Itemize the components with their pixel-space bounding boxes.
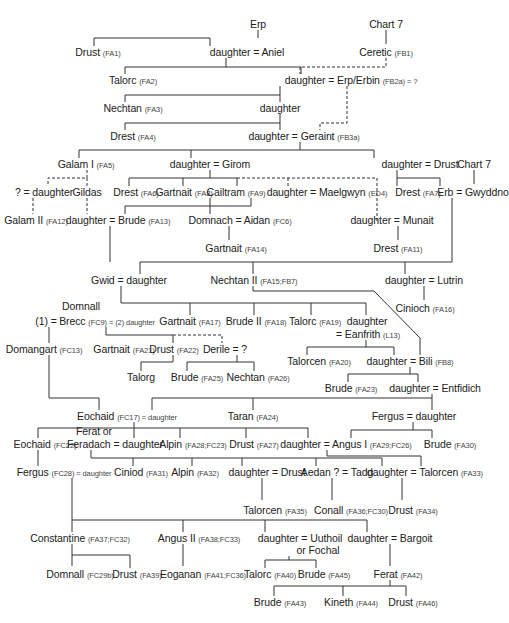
person-reference: (FB1) bbox=[395, 49, 413, 58]
person-reference: (FC29b) bbox=[87, 571, 114, 580]
person-node-brude23: Brude (FA23) bbox=[325, 382, 377, 396]
person-reference: (FA14) bbox=[245, 245, 267, 254]
person-node-constantine: Constantine (FA37;FC32) bbox=[30, 532, 130, 546]
person-name: Brude bbox=[171, 371, 199, 383]
person-node-brude13: daughter = Brude (FA13) bbox=[66, 214, 171, 228]
person-node-gwyddno: Erb = Gwyddno bbox=[437, 186, 508, 198]
person-reference: (FA36;FC30) bbox=[346, 507, 388, 516]
person-node-geraint: daughter = Geraint (FB3a) bbox=[248, 130, 359, 144]
person-node-drust22: Drust (FA22) bbox=[149, 343, 198, 357]
person-reference: (FA1) bbox=[103, 49, 121, 58]
person-name: Fergus bbox=[17, 466, 49, 478]
person-reference: (FA12) bbox=[46, 217, 68, 226]
person-name: Fergus = daughter bbox=[372, 410, 456, 422]
person-reference: (FA24) bbox=[256, 413, 278, 422]
person-name: daughter = Angus I bbox=[280, 438, 367, 450]
person-node-tadg: Aedan ? = Tadg bbox=[301, 466, 373, 478]
person-node-ciniod: Ciniod (FA31) bbox=[114, 466, 168, 480]
person-name: Domangart bbox=[6, 343, 57, 355]
person-name: Constantine bbox=[30, 532, 85, 544]
person-node-alpin28: Alpin (FA28;FC23) bbox=[159, 438, 227, 452]
person-name: Feradach = daughter bbox=[67, 438, 163, 450]
person-name: Gartnait bbox=[159, 315, 196, 327]
person-reference: (FC28) = daughter bbox=[52, 469, 112, 478]
person-node-maelgwyn: daughter = Maelgwyn (ED4) bbox=[267, 186, 388, 200]
person-node-taran: Taran (FA24) bbox=[228, 410, 279, 424]
person-reference: (FA39) bbox=[140, 571, 162, 580]
person-node-drust27: Drust (FA27) bbox=[229, 438, 278, 452]
person-name: Talorcen bbox=[243, 504, 282, 516]
person-name: Chart 7 bbox=[369, 18, 403, 30]
person-name: Angus II bbox=[158, 532, 196, 544]
person-node-cinioch: Cinioch (FA16) bbox=[395, 302, 454, 316]
person-reference: (FA3) bbox=[145, 105, 163, 114]
person-reference: (FB8) bbox=[435, 358, 453, 367]
person-reference: (FA9) bbox=[248, 189, 266, 198]
person-node-angus1: daughter = Angus I (FA29;FC26) bbox=[280, 438, 411, 452]
person-reference: (FA22) bbox=[177, 346, 199, 355]
person-name: Brude bbox=[424, 438, 452, 450]
person-reference: (FB2a) = ? bbox=[383, 77, 418, 86]
person-node-gildas: Gildas bbox=[72, 186, 101, 198]
person-name: Talorcen bbox=[287, 355, 326, 367]
person-name: Drest bbox=[395, 186, 420, 198]
person-node-gwid: Gwid = daughter bbox=[91, 274, 167, 286]
person-node-drust34: Drust (FA34) bbox=[388, 504, 437, 518]
person-name: Ceretic bbox=[359, 46, 392, 58]
person-name: Derile = ? bbox=[203, 343, 247, 355]
person-name: Drest bbox=[374, 242, 399, 254]
person-name: daughter = Drust bbox=[382, 158, 459, 170]
person-node-kineth: Kineth (FA44) bbox=[324, 596, 378, 610]
person-node-gartnait8: Gartnait (FA8) bbox=[155, 186, 212, 200]
person-reference: (FA23) bbox=[355, 385, 377, 394]
person-reference: (FA11) bbox=[401, 245, 422, 254]
person-reference: (FC13) bbox=[60, 346, 83, 355]
person-name: Kineth bbox=[324, 596, 353, 608]
person-name: Ferat bbox=[374, 568, 398, 580]
person-name: Gartnait bbox=[205, 242, 242, 254]
person-name: Brecc bbox=[59, 315, 85, 327]
person-node-eoganan: Eoganan (FA41;FC36) bbox=[160, 568, 246, 582]
person-name: daughter = Brude bbox=[66, 214, 146, 226]
person-node-entfidich: daughter = Entfidich bbox=[389, 382, 481, 394]
person-node-talorcen20: Talorcen (FA20) bbox=[287, 355, 351, 369]
person-name: Gildas bbox=[72, 186, 101, 198]
person-node-erbin: daughter = Erp/Erbin (FB2a) = ? bbox=[285, 74, 418, 88]
person-node-gartnait14: Gartnait (FA14) bbox=[205, 242, 266, 256]
person-node-talorc19: Talorc (FA19) bbox=[289, 315, 341, 329]
person-node-fochal: or Fochal bbox=[297, 544, 340, 556]
person-node-girom: daughter = Girom bbox=[170, 158, 250, 170]
person-name: daughter = Girom bbox=[170, 158, 250, 170]
person-node-talorc40: Talorc (FA40) bbox=[244, 568, 296, 582]
person-node-alpin32: Alpin (FA32) bbox=[171, 466, 219, 480]
person-name: Drust bbox=[388, 504, 413, 516]
person-node-angus2: Angus II (FA38;FC33) bbox=[158, 532, 240, 546]
person-node-fergus: Fergus = daughter bbox=[372, 410, 456, 422]
person-node-brude45: Brude (FA45) bbox=[298, 568, 350, 582]
person-node-drust46: Drust (FA46) bbox=[388, 596, 437, 610]
person-name: Cailtram bbox=[207, 186, 245, 198]
person-reference: (FA44) bbox=[356, 599, 378, 608]
person-name: Ciniod bbox=[114, 466, 143, 478]
person-reference: (FA17) bbox=[199, 318, 221, 327]
person-node-brude43: Brude (FA43) bbox=[254, 596, 306, 610]
person-node-ceretic: Ceretic (FB1) bbox=[359, 46, 413, 60]
person-node-domangart: Domangart (FC13) bbox=[6, 343, 83, 357]
person-reference: (FA34) bbox=[416, 507, 438, 516]
person-node-one_eq: (1) = bbox=[35, 315, 56, 327]
person-name: daughter = Geraint bbox=[248, 130, 334, 142]
person-node-lutrin: daughter = Lutrin bbox=[385, 274, 463, 286]
person-name: Brude bbox=[325, 382, 353, 394]
person-reference: (FA13) bbox=[148, 217, 170, 226]
person-name: Chart 7 bbox=[457, 158, 491, 170]
person-name: Talorc bbox=[289, 315, 316, 327]
person-name: Drust bbox=[388, 596, 413, 608]
person-node-domnall_top: Domnall bbox=[62, 300, 100, 312]
person-node-brude25: Brude (FA25) bbox=[171, 371, 223, 385]
person-name: Drust bbox=[75, 46, 100, 58]
person-name: Nechtan II bbox=[210, 274, 257, 286]
person-reference: (FA32) bbox=[197, 469, 219, 478]
person-node-nechtan26: Nechtan (FA26) bbox=[226, 371, 289, 385]
person-node-erp: Erp bbox=[250, 18, 266, 30]
